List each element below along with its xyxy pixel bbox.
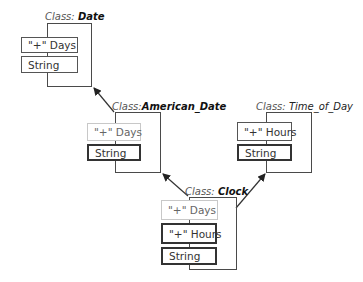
field-string: String (161, 247, 217, 265)
field-hours: "+" Hours (237, 122, 292, 141)
field-string: String (21, 56, 78, 73)
class-name: American_Date (142, 101, 227, 112)
class-keyword: Class: (185, 186, 215, 197)
field-days: "+" Days (21, 37, 78, 53)
field-hours: "+" Hours (161, 223, 217, 244)
class-hierarchy-diagram: Class: Date "+" Days String Class:Americ… (0, 0, 363, 282)
class-label-date: Class: Date (45, 11, 105, 23)
field-string: String (87, 144, 141, 161)
arrow-american-date-to-date (94, 88, 114, 112)
class-frame-american-date (115, 112, 161, 173)
field-string: String (237, 144, 292, 161)
class-name: Time_of_Day (289, 101, 353, 112)
class-frame-date (47, 23, 92, 87)
field-days-inherited: "+" Days (161, 200, 218, 220)
class-name: Date (78, 11, 105, 22)
class-keyword: Class: (45, 11, 75, 22)
class-name: Clock (218, 186, 248, 197)
class-keyword: Class: (256, 101, 286, 112)
field-days-inherited: "+" Days (87, 123, 141, 141)
class-keyword: Class: (112, 101, 142, 112)
